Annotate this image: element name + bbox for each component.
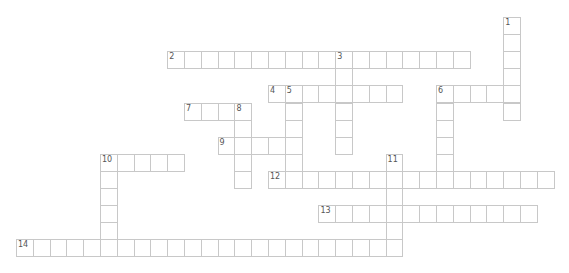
crossword-cell[interactable]	[285, 51, 303, 69]
crossword-cell[interactable]	[453, 171, 471, 189]
crossword-cell[interactable]	[369, 171, 387, 189]
crossword-cell[interactable]	[285, 171, 303, 189]
crossword-cell[interactable]	[251, 137, 269, 155]
crossword-cell[interactable]	[352, 205, 370, 223]
crossword-cell[interactable]	[268, 51, 286, 69]
crossword-cell[interactable]	[268, 239, 286, 257]
crossword-cell[interactable]	[486, 171, 504, 189]
crossword-cell[interactable]	[436, 171, 454, 189]
crossword-cell[interactable]	[369, 85, 387, 103]
crossword-cell[interactable]	[201, 103, 219, 121]
crossword-cell[interactable]: 14	[16, 239, 34, 257]
crossword-cell[interactable]	[453, 205, 471, 223]
crossword-cell[interactable]	[352, 51, 370, 69]
crossword-cell[interactable]	[100, 188, 118, 206]
crossword-cell[interactable]	[335, 239, 353, 257]
crossword-cell[interactable]	[436, 205, 454, 223]
crossword-cell[interactable]	[302, 85, 320, 103]
crossword-cell[interactable]	[402, 205, 420, 223]
crossword-cell[interactable]	[470, 205, 488, 223]
crossword-cell[interactable]	[83, 239, 101, 257]
crossword-cell[interactable]	[369, 239, 387, 257]
crossword-cell[interactable]: 4	[268, 85, 286, 103]
crossword-cell[interactable]	[285, 120, 303, 138]
crossword-cell[interactable]	[201, 51, 219, 69]
crossword-cell[interactable]	[402, 171, 420, 189]
crossword-cell[interactable]: 10	[100, 154, 118, 172]
crossword-cell[interactable]	[470, 85, 488, 103]
crossword-cell[interactable]	[503, 85, 521, 103]
crossword-cell[interactable]	[100, 171, 118, 189]
crossword-cell[interactable]: 8	[234, 103, 252, 121]
crossword-cell[interactable]	[167, 239, 185, 257]
crossword-cell[interactable]	[134, 154, 152, 172]
crossword-cell[interactable]	[251, 239, 269, 257]
crossword-cell[interactable]	[117, 239, 135, 257]
crossword-cell[interactable]	[33, 239, 51, 257]
crossword-cell[interactable]	[436, 137, 454, 155]
crossword-cell[interactable]	[436, 120, 454, 138]
crossword-cell[interactable]	[234, 120, 252, 138]
crossword-cell[interactable]	[335, 171, 353, 189]
crossword-cell[interactable]	[386, 188, 404, 206]
crossword-cell[interactable]	[402, 51, 420, 69]
crossword-cell[interactable]	[318, 85, 336, 103]
crossword-cell[interactable]	[184, 51, 202, 69]
crossword-cell[interactable]	[453, 51, 471, 69]
crossword-cell[interactable]	[100, 222, 118, 240]
crossword-cell[interactable]: 5	[285, 85, 303, 103]
crossword-cell[interactable]	[352, 239, 370, 257]
crossword-cell[interactable]: 9	[218, 137, 236, 155]
crossword-cell[interactable]	[470, 171, 488, 189]
crossword-cell[interactable]	[234, 154, 252, 172]
crossword-cell[interactable]	[184, 239, 202, 257]
crossword-cell[interactable]	[218, 51, 236, 69]
crossword-cell[interactable]	[150, 239, 168, 257]
crossword-cell[interactable]	[318, 171, 336, 189]
crossword-cell[interactable]	[386, 205, 404, 223]
crossword-cell[interactable]	[386, 85, 404, 103]
crossword-cell[interactable]	[50, 239, 68, 257]
crossword-cell[interactable]	[234, 137, 252, 155]
crossword-cell[interactable]	[285, 137, 303, 155]
crossword-cell[interactable]	[268, 137, 286, 155]
crossword-cell[interactable]	[285, 239, 303, 257]
crossword-cell[interactable]	[386, 51, 404, 69]
crossword-cell[interactable]	[503, 205, 521, 223]
crossword-cell[interactable]	[285, 154, 303, 172]
crossword-cell[interactable]	[234, 239, 252, 257]
crossword-cell[interactable]	[503, 51, 521, 69]
crossword-cell[interactable]	[302, 171, 320, 189]
crossword-cell[interactable]	[503, 68, 521, 86]
crossword-cell[interactable]: 11	[386, 154, 404, 172]
crossword-cell[interactable]: 13	[318, 205, 336, 223]
crossword-cell[interactable]: 6	[436, 85, 454, 103]
crossword-cell[interactable]	[167, 154, 185, 172]
crossword-cell[interactable]	[100, 205, 118, 223]
crossword-cell[interactable]	[150, 154, 168, 172]
crossword-cell[interactable]	[335, 120, 353, 138]
crossword-cell[interactable]	[503, 171, 521, 189]
crossword-cell[interactable]	[318, 51, 336, 69]
crossword-cell[interactable]	[234, 51, 252, 69]
crossword-cell[interactable]	[335, 85, 353, 103]
crossword-cell[interactable]	[335, 103, 353, 121]
crossword-cell[interactable]	[66, 239, 84, 257]
crossword-cell[interactable]	[503, 34, 521, 52]
crossword-cell[interactable]	[520, 205, 538, 223]
crossword-cell[interactable]	[436, 154, 454, 172]
crossword-cell[interactable]	[201, 239, 219, 257]
crossword-cell[interactable]	[436, 51, 454, 69]
crossword-cell[interactable]	[486, 85, 504, 103]
crossword-cell[interactable]	[100, 239, 118, 257]
crossword-cell[interactable]	[369, 205, 387, 223]
crossword-cell[interactable]	[537, 171, 555, 189]
crossword-cell[interactable]	[369, 51, 387, 69]
crossword-cell[interactable]	[503, 103, 521, 121]
crossword-cell[interactable]	[386, 171, 404, 189]
crossword-cell[interactable]: 3	[335, 51, 353, 69]
crossword-cell[interactable]	[386, 222, 404, 240]
crossword-cell[interactable]: 12	[268, 171, 286, 189]
crossword-cell[interactable]	[335, 205, 353, 223]
crossword-cell[interactable]	[453, 85, 471, 103]
